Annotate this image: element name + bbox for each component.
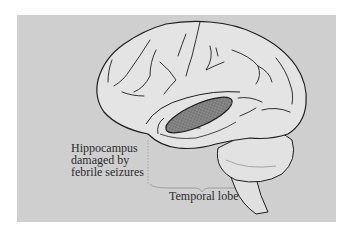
hippocampus-label: Hippocampus damaged by febrile seizures [71, 142, 144, 178]
hippocampus-label-line3: febrile seizures [71, 166, 144, 178]
temporal-lobe-label: Temporal lobe [169, 190, 238, 202]
cerebrum-outline [97, 21, 306, 148]
